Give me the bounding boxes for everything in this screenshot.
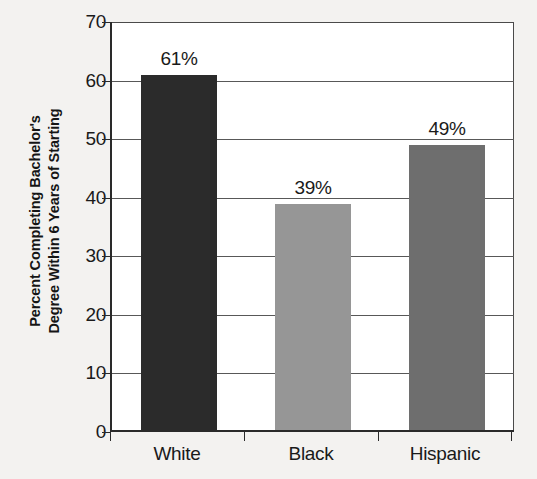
x-axis-end-tick-mark xyxy=(110,432,111,441)
x-axis-category-label: Black xyxy=(244,443,378,465)
y-axis-tick-labels: 010203040506070 xyxy=(60,0,106,479)
y-axis-tick-mark xyxy=(102,139,111,140)
x-axis-tick-mark xyxy=(244,432,245,441)
y-axis-tick-label: 0 xyxy=(62,421,106,443)
bar-value-label: 49% xyxy=(397,118,497,140)
y-axis-title-line-1: Percent Completing Bachelor's xyxy=(26,108,45,333)
x-axis: WhiteBlackHispanic xyxy=(110,432,512,479)
bar-value-label: 39% xyxy=(263,177,363,199)
y-axis-tick-label: 20 xyxy=(62,304,106,326)
y-axis-tick-mark xyxy=(102,198,111,199)
x-axis-tick-mark xyxy=(378,432,379,441)
y-axis-tick-mark xyxy=(102,432,111,433)
x-axis-category-label: White xyxy=(110,443,244,465)
y-axis-tick-label: 70 xyxy=(62,11,106,33)
plot-area: 61%39%49% xyxy=(110,22,514,432)
y-axis-tick-label: 60 xyxy=(62,70,106,92)
bar[interactable] xyxy=(275,204,351,430)
y-axis-tick-mark xyxy=(102,373,111,374)
y-axis-tick-label: 10 xyxy=(62,362,106,384)
bar-chart-figure: Percent Completing Bachelor's Degree Wit… xyxy=(0,0,537,479)
y-axis-tick-mark xyxy=(102,256,111,257)
y-axis-tick-label: 30 xyxy=(62,245,106,267)
y-axis-tick-mark xyxy=(102,22,111,23)
y-axis-tick-label: 50 xyxy=(62,128,106,150)
bar[interactable] xyxy=(141,75,217,430)
bar[interactable] xyxy=(409,145,485,430)
x-axis-category-label: Hispanic xyxy=(378,443,512,465)
y-axis-tick-mark xyxy=(102,315,111,316)
plot-top-border xyxy=(112,22,514,23)
bar-value-label: 61% xyxy=(129,48,229,70)
x-axis-end-tick-mark xyxy=(511,432,512,441)
y-axis-tick-mark xyxy=(102,81,111,82)
plot-right-border xyxy=(513,22,514,432)
y-axis-tick-label: 40 xyxy=(62,187,106,209)
